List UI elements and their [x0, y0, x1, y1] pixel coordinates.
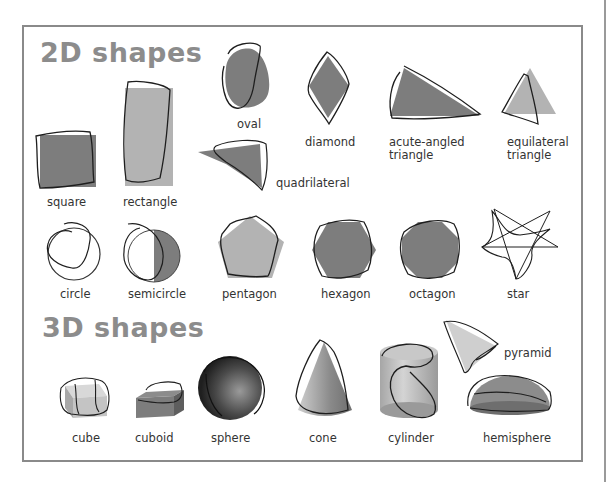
label-octagon: octagon — [409, 288, 456, 301]
label-sphere: sphere — [211, 432, 250, 445]
star-shape-icon — [480, 205, 560, 283]
label-pentagon: pentagon — [222, 288, 277, 301]
hemisphere-shape-icon — [466, 372, 556, 422]
label-pyramid: pyramid — [504, 347, 552, 360]
cone-shape-icon — [292, 338, 356, 424]
acute-triangle-shape-icon — [386, 64, 486, 126]
label-cuboid: cuboid — [135, 432, 173, 445]
pentagon-shape-icon — [216, 214, 286, 280]
semicircle-shape-icon — [118, 218, 188, 284]
pyramid-shape-icon — [440, 316, 506, 376]
label-diamond: diamond — [305, 136, 355, 149]
page-edge-line — [604, 0, 606, 482]
label-acute-triangle: triangle — [389, 149, 433, 162]
equilateral-triangle-shape-icon — [498, 66, 568, 126]
label-quadrilateral: quadrilateral — [276, 177, 350, 190]
cube-shape-icon — [55, 374, 115, 424]
octagon-shape-icon — [398, 218, 464, 282]
cuboid-shape-icon — [130, 378, 190, 424]
label-star: star — [507, 288, 529, 301]
label-hexagon: hexagon — [321, 288, 371, 301]
label-semicircle: semicircle — [128, 288, 186, 301]
label-hemisphere: hemisphere — [483, 432, 551, 445]
rectangle-shape-icon — [120, 80, 176, 190]
circle-shape-icon — [42, 218, 106, 282]
label-circle: circle — [60, 288, 91, 301]
heading-3d-shapes: 3D shapes — [42, 312, 204, 343]
cylinder-shape-icon — [376, 342, 448, 424]
label-rectangle: rectangle — [123, 196, 177, 209]
label-cylinder: cylinder — [388, 432, 434, 445]
heading-2d-shapes: 2D shapes — [40, 37, 202, 68]
quadrilateral-shape-icon — [196, 138, 272, 194]
label-cube: cube — [72, 432, 100, 445]
square-shape-icon — [34, 128, 98, 192]
label-equilateral-triangle: triangle — [507, 149, 551, 162]
label-square: square — [47, 196, 86, 209]
hexagon-shape-icon — [310, 218, 378, 282]
label-oval: oval — [237, 118, 261, 131]
oval-shape-icon — [218, 40, 278, 115]
label-cone: cone — [309, 432, 337, 445]
sphere-shape-icon — [196, 352, 268, 424]
diamond-shape-icon — [303, 50, 353, 130]
